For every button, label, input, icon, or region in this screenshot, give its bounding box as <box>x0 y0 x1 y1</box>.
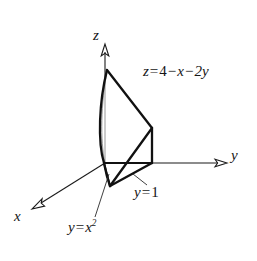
x-axis-label: x <box>14 209 21 224</box>
plane-eq-equals: = <box>149 63 159 79</box>
plane-eq-minus-1: − <box>167 63 177 79</box>
boundary-y-equals-1-label: y=1 <box>134 185 159 200</box>
ysq-equals: = <box>75 219 85 235</box>
x-axis-line <box>41 163 105 203</box>
figure-container: z y x z=4−x−2y y=1 y=x2 <box>0 0 257 261</box>
x-axis-arrowhead <box>32 199 45 209</box>
y-axis-label: y <box>231 148 238 163</box>
plane-eq-term-2y: 2y <box>194 63 208 79</box>
plane-eq-lhs: z <box>143 63 149 79</box>
y1-rhs: 1 <box>151 184 159 200</box>
solid-faces-group <box>101 70 152 186</box>
y1-lhs: y <box>134 184 141 200</box>
plane-equation-label: z=4−x−2y <box>143 64 209 79</box>
plane-eq-term-x: x <box>177 63 184 79</box>
y1-equals: = <box>141 184 151 200</box>
ysq-base: x <box>85 219 92 235</box>
ysq-exponent: 2 <box>92 218 97 228</box>
plane-top-face <box>107 70 152 186</box>
ysq-lhs: y <box>68 219 75 235</box>
plane-eq-minus-2: − <box>184 63 194 79</box>
leader-line-y-equals-x-squared <box>95 174 109 217</box>
boundary-parabola-label: y=x2 <box>68 220 96 235</box>
z-axis-label: z <box>93 28 99 43</box>
plane-eq-constant: 4 <box>159 63 167 79</box>
figure-graphic <box>0 0 257 261</box>
